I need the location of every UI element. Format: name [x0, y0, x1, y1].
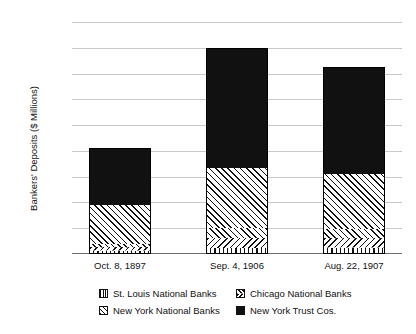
new-york-trust-swatch-icon	[236, 306, 245, 315]
bar-segment	[323, 248, 385, 254]
legend-item-new-york-national: New York National Banks	[99, 305, 220, 316]
bar-segment	[206, 248, 268, 254]
gridline	[72, 22, 402, 23]
bar-segment	[206, 228, 268, 248]
legend-item-chicago: Chicago National Banks	[236, 288, 351, 299]
bar-segment	[323, 174, 385, 229]
legend-label: Chicago National Banks	[250, 288, 351, 299]
plot-area: $–$100$200$300$400$500$600$700$800$900	[72, 22, 402, 254]
legend-label: St. Louis National Banks	[113, 288, 217, 299]
legend-label: New York National Banks	[113, 305, 220, 316]
new-york-national-swatch-icon	[99, 306, 108, 315]
y-axis-title: Bankers' Deposits ($ Millions)	[28, 54, 39, 244]
bar-segment	[89, 244, 151, 251]
x-axis-tick-label: Aug. 22, 1907	[279, 260, 416, 271]
legend-row-1: St. Louis National Banks Chicago Nationa…	[0, 288, 416, 305]
bar-2	[206, 48, 268, 254]
bar-chart: Bankers' Deposits ($ Millions) $–$100$20…	[0, 0, 416, 334]
bar-segment	[323, 229, 385, 248]
legend-label: New York Trust Cos.	[250, 305, 336, 316]
chart-legend: St. Louis National Banks Chicago Nationa…	[0, 288, 416, 322]
bar-segment	[89, 148, 151, 205]
stlouis-swatch-icon	[99, 289, 108, 298]
chicago-swatch-icon	[236, 289, 245, 298]
bar-segment	[89, 251, 151, 254]
legend-item-st-louis: St. Louis National Banks	[99, 288, 217, 299]
bar-segment	[206, 48, 268, 168]
bar-1	[89, 148, 151, 254]
bar-segment	[89, 205, 151, 244]
legend-row-2: New York National Banks New York Trust C…	[0, 305, 416, 322]
bar-3	[323, 67, 385, 254]
bar-segment	[323, 67, 385, 174]
bar-segment	[206, 168, 268, 229]
legend-item-new-york-trust: New York Trust Cos.	[236, 305, 336, 316]
